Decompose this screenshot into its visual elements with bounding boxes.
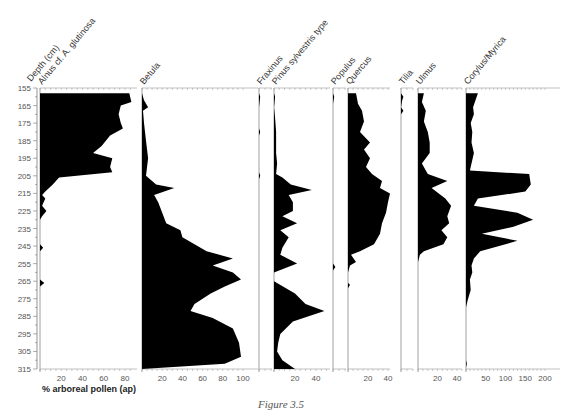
depth-tick-label: 205 xyxy=(18,172,32,181)
x-tick-label: 20 xyxy=(433,374,442,383)
pollen-curve xyxy=(274,93,324,369)
pollen-diagram: 1551651751851952052152252352452552652752… xyxy=(0,0,562,417)
depth-tick-label: 315 xyxy=(18,365,32,374)
x-tick-label: 20 xyxy=(291,374,300,383)
depth-tick-label: 285 xyxy=(18,312,32,321)
depth-tick-label: 245 xyxy=(18,242,32,251)
taxon-label: Alnus cf. A. glutinosa xyxy=(36,16,97,86)
depth-tick-label: 235 xyxy=(18,225,32,234)
pollen-curve xyxy=(40,93,131,369)
x-tick-label: 40 xyxy=(453,374,462,383)
depth-tick-label: 155 xyxy=(18,84,32,93)
x-tick-label: 40 xyxy=(78,374,87,383)
x-tick-label: 20 xyxy=(364,374,373,383)
taxon-label: Betula xyxy=(138,60,162,86)
x-tick-label: 20 xyxy=(158,374,167,383)
depth-tick-label: 255 xyxy=(18,260,32,269)
taxon-label: Ulmus xyxy=(414,60,438,86)
x-tick-label: 80 xyxy=(121,374,130,383)
taxon-panel: 20406080Alnus cf. A. glutinosa xyxy=(36,16,137,383)
depth-tick-label: 265 xyxy=(18,277,32,286)
depth-tick-label: 295 xyxy=(18,330,32,339)
x-tick-label: 50 xyxy=(481,374,490,383)
pollen-curve xyxy=(466,93,533,369)
depth-tick-label: 305 xyxy=(18,347,32,356)
x-tick-label: 40 xyxy=(312,374,321,383)
depth-tick-label: 275 xyxy=(18,295,32,304)
depth-axis: 1551651751851952052152252352452552652752… xyxy=(18,43,62,374)
taxon-panel: 20406080100Betula xyxy=(138,60,258,383)
x-tick-label: 100 xyxy=(499,374,513,383)
x-tick-label: 60 xyxy=(198,374,207,383)
depth-tick-label: 195 xyxy=(18,154,32,163)
pollen-curve xyxy=(142,93,241,369)
x-tick-label: 100 xyxy=(236,374,250,383)
taxon-panel: 2040Ulmus xyxy=(414,60,462,383)
taxon-panel: Tilia xyxy=(397,67,415,372)
figure-caption: Figure 3.5 xyxy=(0,398,562,410)
x-tick-label: 40 xyxy=(384,374,393,383)
pollen-curve xyxy=(418,93,451,369)
depth-tick-label: 175 xyxy=(18,119,32,128)
depth-tick-label: 165 xyxy=(18,102,32,111)
depth-tick-label: 185 xyxy=(18,137,32,146)
x-tick-label: 200 xyxy=(538,374,552,383)
taxon-panels: 20406080Alnus cf. A. glutinosa2040608010… xyxy=(36,16,560,383)
pollen-curve xyxy=(348,93,390,369)
taxon-label: Pinus sylvestris type xyxy=(270,17,330,86)
depth-tick-label: 215 xyxy=(18,189,32,198)
taxon-label: Tilia xyxy=(397,67,415,86)
taxon-label: Corylus/Myrica xyxy=(462,34,508,86)
x-tick-label: 80 xyxy=(218,374,227,383)
depth-tick-label: 225 xyxy=(18,207,32,216)
x-axis-title: % arboreal pollen (ap) xyxy=(42,384,136,394)
x-tick-label: 60 xyxy=(99,374,108,383)
taxon-panel: 2040Pinus sylvestris type xyxy=(270,17,330,383)
x-tick-label: 20 xyxy=(57,374,66,383)
x-tick-label: 150 xyxy=(519,374,533,383)
x-tick-label: 40 xyxy=(178,374,187,383)
taxon-panel: 2040Quercus xyxy=(344,53,393,383)
taxon-panel: 50100150200Corylus/Myrica xyxy=(462,34,560,383)
